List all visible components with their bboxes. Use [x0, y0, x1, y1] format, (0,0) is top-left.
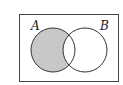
- venn-diagram: A B: [0, 0, 123, 85]
- set-b-label: B: [99, 19, 109, 33]
- set-a-label: A: [30, 19, 40, 33]
